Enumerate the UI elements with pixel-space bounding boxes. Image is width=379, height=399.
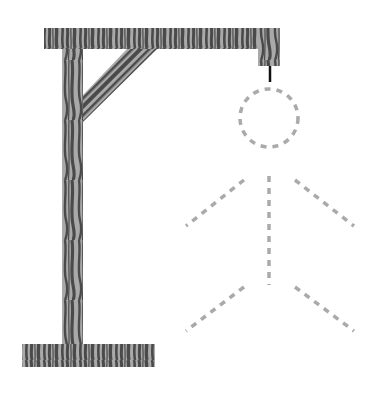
gallows: [22, 28, 280, 367]
figure-right-leg: [295, 287, 354, 331]
figure-left-arm: [186, 180, 244, 226]
gallows-post: [62, 28, 83, 348]
figure-right-arm: [295, 180, 354, 226]
gallows-hook-block: [258, 28, 280, 66]
hangman-drawing: [0, 0, 379, 399]
hangman-figure: [186, 89, 354, 331]
gallows-top-beam: [44, 28, 280, 49]
figure-left-leg: [186, 287, 244, 331]
hangman-stage: [0, 0, 379, 399]
gallows-brace: [83, 49, 157, 122]
figure-head: [240, 89, 298, 147]
gallows-base: [22, 344, 155, 367]
